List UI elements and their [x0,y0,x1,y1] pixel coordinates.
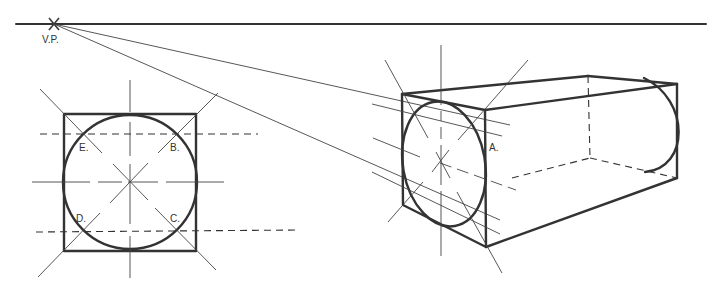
back-ellipse-arc [644,78,679,172]
perspective-view: A. [372,45,679,273]
diagonal-1 [40,89,102,153]
top-edge-right [485,84,677,110]
label-a: A. [489,142,498,153]
label-e: E. [79,142,88,153]
top-edge-left [402,76,588,94]
label-c: C. [170,213,180,224]
dashed-line-bottom [36,230,300,232]
label-d: D. [76,213,86,224]
diagonal-2c [38,213,100,277]
perspective-diagram: V.P. E. B. D. C. [0,0,724,295]
hidden-vertical-edge [588,76,590,158]
bottom-edge [486,178,677,247]
label-b: B. [170,142,179,153]
recede-line-mid-b [440,163,516,190]
hidden-bottom-right [590,158,677,178]
diag-3d-2b [432,150,449,172]
recede-line-mid [373,138,420,157]
vp-label: V.P. [42,34,59,45]
diagonal-2b [110,163,148,203]
hidden-bottom-left [512,158,590,178]
square-view: E. B. D. C. [32,80,300,278]
diag-3d-1b [436,152,450,178]
horizon-group: V.P. [16,18,706,45]
back-top-edge [588,76,677,84]
diagonal-2 [158,93,218,153]
